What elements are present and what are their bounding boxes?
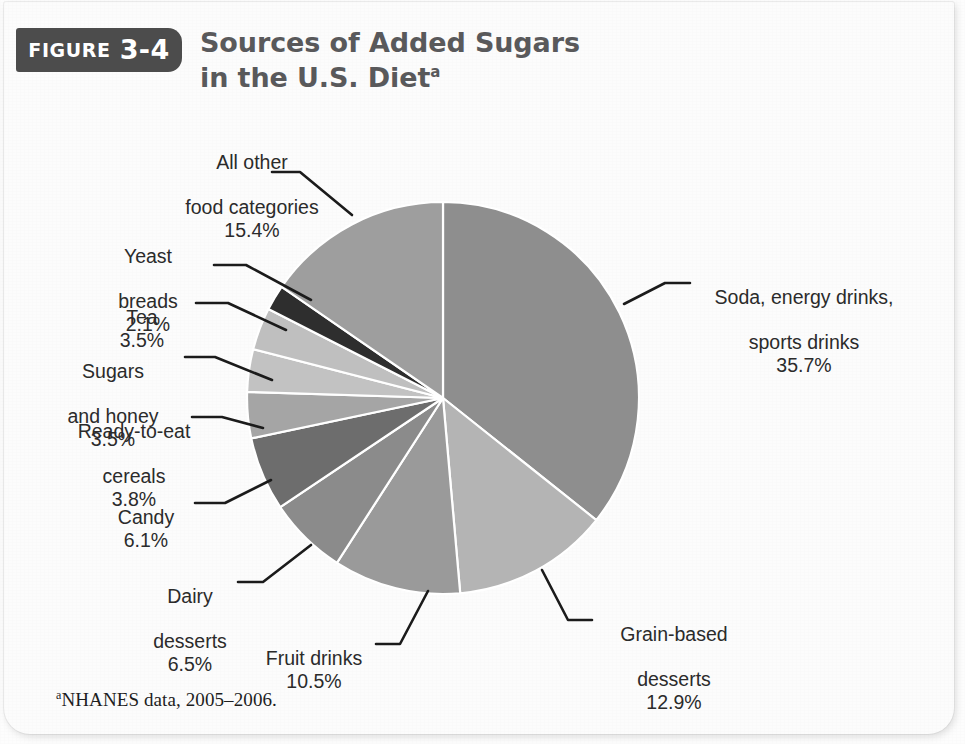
callout-candy-pct: 6.1% [104, 529, 188, 552]
leader-line-fruit [376, 591, 428, 644]
callout-soda: Soda, energy drinks, sports drinks 35.7% [694, 263, 914, 400]
figure-page: FIGURE 3-4 Sources of Added Sugars in th… [0, 0, 965, 744]
callout-allother-line1: All other [216, 151, 288, 173]
callout-yeast-line1: Yeast [124, 245, 172, 267]
leader-line-grain [542, 570, 592, 620]
figure-footnote: aNHANES data, 2005–2006. [56, 689, 277, 711]
callout-grain: Grain-based desserts 12.9% [596, 600, 752, 737]
callout-soda-pct: 35.7% [694, 354, 914, 377]
leader-line-dairy [238, 545, 311, 582]
callout-cereals-line1: Ready-to-eat [78, 420, 191, 442]
callout-dairy-line1: Dairy [167, 585, 213, 607]
callout-sugars-line1: Sugars [82, 360, 144, 382]
callout-candy: Candy 6.1% [104, 483, 188, 574]
callout-tea-line1: Tea [126, 306, 157, 328]
callout-grain-pct: 12.9% [596, 691, 752, 714]
callout-soda-line1: Soda, energy drinks, [715, 286, 894, 308]
callout-grain-line2: desserts [637, 668, 711, 690]
callout-candy-line1: Candy [118, 506, 174, 528]
callout-dairy-pct: 6.5% [138, 653, 242, 676]
callout-dairy: Dairy desserts 6.5% [138, 562, 242, 699]
callout-allother-line2: food categories [185, 196, 318, 218]
leader-line-soda [624, 283, 690, 304]
callout-fruit-line1: Fruit drinks [266, 647, 362, 669]
callout-grain-line1: Grain-based [620, 623, 727, 645]
callout-dairy-line2: desserts [153, 630, 227, 652]
footnote-text: NHANES data, 2005–2006. [61, 689, 277, 710]
callout-soda-line2: sports drinks [749, 331, 860, 353]
